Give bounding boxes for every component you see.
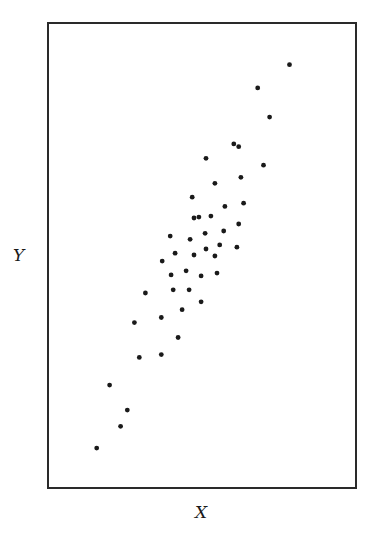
data-point [125,408,130,413]
data-point [168,234,173,239]
data-point [159,315,164,320]
data-point [190,195,195,200]
data-point [132,320,137,325]
data-point [192,216,197,221]
data-point [203,231,208,236]
data-point [239,175,244,180]
y-axis-label: Y [13,245,24,265]
data-point [159,352,164,357]
data-point [188,237,193,242]
data-point [197,215,202,220]
data-point [173,251,178,256]
data-point [192,253,197,258]
data-point [209,214,214,219]
data-point [236,144,241,149]
data-point [160,259,165,264]
data-point [255,86,260,91]
data-point [118,424,123,429]
data-point [94,446,99,451]
data-point [241,201,246,206]
data-point [176,335,181,340]
data-point [169,273,174,278]
data-point [204,156,209,161]
data-point [143,291,148,296]
data-point [213,181,218,186]
data-point [236,222,241,227]
data-point [231,142,236,147]
data-point [261,163,266,168]
data-point [199,299,204,304]
x-axis-label: X [195,502,207,522]
data-point [187,287,192,292]
data-point [235,245,240,250]
data-point [199,274,204,279]
scatter-points-layer [0,0,373,549]
data-point [184,268,189,273]
scatter-chart: Y X [0,0,373,549]
data-point [213,254,218,259]
data-point [221,229,226,234]
data-point [223,204,228,209]
data-point [204,247,209,252]
data-point [137,355,142,360]
data-point [107,383,112,388]
data-point [215,271,220,276]
data-point [217,243,222,248]
data-point [267,115,272,120]
data-point [287,62,292,67]
data-point [171,287,176,292]
data-point [180,307,185,312]
